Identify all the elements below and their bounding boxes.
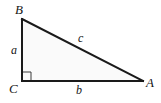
side-label-c: c (78, 32, 83, 44)
vertex-label-b: B (15, 3, 23, 16)
right-triangle-figure: B C A a b c (0, 0, 161, 103)
side-label-a: a (11, 44, 17, 56)
vertex-label-c: C (9, 82, 18, 95)
vertex-label-a: A (146, 76, 154, 89)
side-label-b: b (76, 84, 82, 96)
